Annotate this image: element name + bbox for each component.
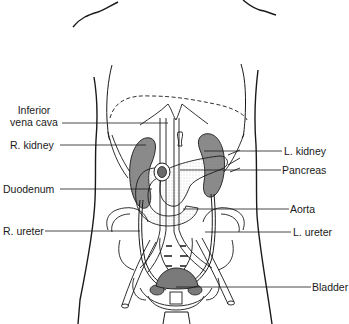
label-r-ureter: R. ureter bbox=[3, 225, 44, 237]
thigh-outline bbox=[163, 312, 190, 324]
duodenum-cut-end bbox=[154, 163, 170, 181]
shoulder-outline bbox=[73, 0, 276, 27]
bladder-shape bbox=[156, 268, 198, 289]
label-duodenum: Duodenum bbox=[3, 183, 54, 195]
celiac-trunk bbox=[177, 132, 182, 146]
label-bladder: Bladder bbox=[312, 281, 348, 293]
label-aorta: Aorta bbox=[290, 203, 315, 215]
label-inferior-vena-cava: Inferior vena cava bbox=[6, 104, 62, 128]
label-l-kidney: L. kidney bbox=[284, 145, 326, 157]
anatomy-diagram bbox=[0, 0, 349, 324]
label-l-ureter: L. ureter bbox=[293, 226, 332, 238]
diaphragm-dashed-line bbox=[110, 96, 247, 120]
label-inferior-vena-cava-line2: vena cava bbox=[6, 116, 62, 128]
label-inferior-vena-cava-line1: Inferior bbox=[6, 104, 62, 116]
label-pancreas: Pancreas bbox=[282, 164, 326, 176]
label-r-kidney: R. kidney bbox=[10, 139, 54, 151]
